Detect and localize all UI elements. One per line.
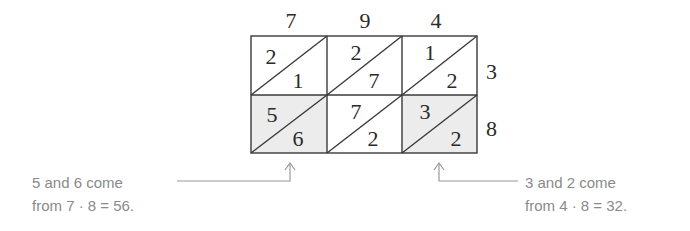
top-digit-0: 7 [286, 8, 297, 33]
left-annotation-line1: 5 and 6 come [32, 174, 123, 191]
cell-r1c0-ones: 6 [293, 126, 304, 151]
cell-r1c1-tens: 7 [351, 99, 362, 124]
right-digit-1: 8 [486, 116, 497, 141]
right-annotation: 3 and 2 come from 4 · 8 = 32. [525, 174, 627, 214]
cell-r0c1-ones: 7 [369, 68, 380, 93]
left-annotation-arrow [177, 163, 295, 181]
right-annotation-arrow [434, 163, 518, 181]
cell-r1c1-ones: 2 [368, 126, 379, 151]
left-annotation-line2: from 7 · 8 = 56. [32, 197, 134, 214]
lattice-diagram: 7 9 4 3 8 2 1 2 7 1 2 5 6 7 2 3 2 5 and … [0, 0, 690, 231]
cell-r0c0-tens: 2 [266, 44, 277, 69]
cell-r0c2-tens: 1 [425, 40, 436, 65]
cell-r0c1-tens: 2 [351, 40, 362, 65]
right-digits: 3 8 [486, 59, 497, 141]
top-digit-2: 4 [431, 8, 442, 33]
cell-r1c0-tens: 5 [267, 102, 278, 127]
cell-r0c2-ones: 2 [447, 68, 458, 93]
top-digit-1: 9 [360, 8, 371, 33]
right-annotation-line2: from 4 · 8 = 32. [525, 197, 627, 214]
right-digit-0: 3 [486, 59, 497, 84]
cell-r1c2-ones: 2 [451, 126, 462, 151]
top-digits: 7 9 4 [286, 8, 442, 33]
cell-r1c2-tens: 3 [420, 99, 431, 124]
right-annotation-line1: 3 and 2 come [525, 174, 616, 191]
left-annotation: 5 and 6 come from 7 · 8 = 56. [32, 174, 134, 214]
cell-r0c0-ones: 1 [293, 68, 304, 93]
